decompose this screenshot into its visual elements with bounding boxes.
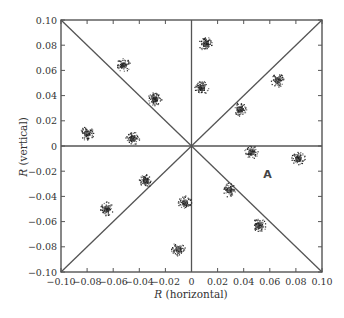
scatter-chart: −0.10−0.08−0.06−0.04−0.0200.020.040.060.…	[0, 0, 344, 318]
y-tick-label: 0.08	[36, 40, 57, 51]
data-cluster	[81, 127, 95, 141]
data-cluster	[291, 152, 305, 165]
data-cluster	[235, 103, 248, 117]
y-tick-label: −0.06	[28, 216, 57, 227]
x-tick-label: 0.10	[311, 276, 332, 287]
x-tick-label: 0.02	[207, 276, 228, 287]
y-axis-label: R (vertical)	[17, 117, 29, 178]
x-tick-label: −0.02	[151, 276, 180, 287]
y-tick-label: −0.10	[28, 267, 57, 278]
x-tick-label: 0.06	[259, 276, 280, 287]
data-cluster	[271, 74, 284, 87]
x-axis-label: R (horizontal)	[153, 288, 227, 300]
data-cluster	[199, 37, 213, 50]
data-cluster	[194, 81, 209, 94]
data-cluster	[148, 92, 162, 106]
data-cluster	[171, 243, 186, 256]
data-cluster	[178, 196, 192, 209]
x-tick-label: −0.06	[99, 276, 128, 287]
y-tick-label: 0	[51, 141, 57, 152]
x-tick-label: 0	[188, 276, 194, 287]
y-tick-label: 0.02	[36, 115, 57, 126]
plot-area	[61, 20, 322, 272]
y-tick-label: −0.04	[28, 191, 57, 202]
y-tick-label: 0.06	[36, 65, 57, 76]
data-cluster	[139, 174, 152, 187]
data-cluster	[117, 58, 131, 72]
y-tick-label: 0.10	[36, 15, 57, 26]
y-tick-label: −0.08	[28, 241, 57, 252]
data-cluster	[125, 132, 140, 146]
x-tick-label: 0.04	[233, 276, 254, 287]
data-cluster	[244, 145, 258, 159]
data-cluster	[223, 183, 235, 198]
y-tick-label: −0.02	[28, 166, 57, 177]
annotation-a: A	[263, 168, 272, 181]
x-tick-label: −0.08	[73, 276, 102, 287]
x-tick-label: −0.10	[46, 276, 75, 287]
y-tick-label: 0.04	[36, 90, 57, 101]
x-tick-label: −0.04	[125, 276, 154, 287]
x-tick-label: 0.08	[285, 276, 306, 287]
data-cluster	[100, 201, 113, 216]
data-cluster	[254, 219, 266, 232]
